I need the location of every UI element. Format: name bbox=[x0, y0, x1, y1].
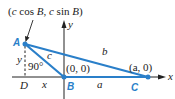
side-c-label: c bbox=[47, 49, 52, 61]
pointer-arrow-icon bbox=[25, 36, 30, 42]
point-c-coordinates-label: (a, 0) bbox=[129, 61, 153, 74]
y-axis-label: y bbox=[67, 18, 73, 30]
segment-y-label: y bbox=[16, 53, 22, 65]
segment-x-label: x bbox=[41, 78, 47, 90]
vertex-b-label: B bbox=[67, 81, 74, 92]
vertex-a-dot bbox=[23, 42, 28, 47]
x-axis-arrow-icon bbox=[158, 75, 166, 80]
y-axis-arrow-icon bbox=[62, 20, 67, 28]
x-axis-label: x bbox=[167, 70, 173, 82]
pointer-line bbox=[27, 20, 33, 38]
vertex-c-label: C bbox=[131, 82, 139, 93]
vertex-b-dot bbox=[62, 75, 67, 80]
origin-coordinates-label: (0, 0) bbox=[66, 62, 90, 75]
right-angle-label: 90° bbox=[28, 60, 43, 72]
side-b-label: b bbox=[102, 45, 108, 57]
side-a-label: a bbox=[97, 78, 103, 90]
point-a-coordinates-label: (c cos B, c sin B) bbox=[8, 5, 83, 18]
triangle-diagram: (c cos B, c sin B) y x A B C D (0, 0) (a… bbox=[0, 0, 175, 99]
vertex-a-label: A bbox=[12, 37, 20, 48]
vertex-c-dot bbox=[146, 75, 151, 80]
point-d-label: D bbox=[19, 79, 28, 91]
